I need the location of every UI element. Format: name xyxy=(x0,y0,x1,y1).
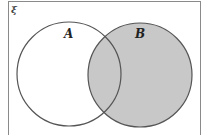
set-a-label: A xyxy=(63,27,73,41)
set-b-label: B xyxy=(134,27,145,41)
venn-diagram: ξ A B xyxy=(0,0,203,135)
